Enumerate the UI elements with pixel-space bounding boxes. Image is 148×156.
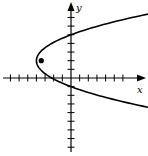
focus-point [39,58,44,63]
y-axis-arrow-icon [68,2,75,11]
y-axis [68,2,75,152]
parabola-curve [36,14,148,107]
parabola-graph: y x [0,0,148,156]
x-axis-label: x [137,84,143,95]
x-axis-arrow-icon [137,75,146,82]
x-axis [3,75,146,82]
y-axis-label: y [75,2,82,13]
